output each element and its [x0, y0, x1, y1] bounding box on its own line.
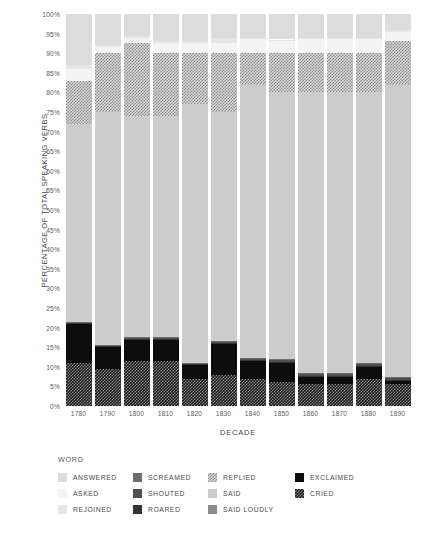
bar-column — [182, 14, 208, 406]
bar-column — [66, 14, 92, 406]
bar-segment — [269, 53, 295, 92]
bar-segment — [211, 343, 237, 374]
bar-segment — [298, 377, 324, 385]
bar-segment — [385, 381, 411, 385]
bar-segment — [298, 374, 324, 376]
bar-segment — [240, 361, 266, 379]
legend-item[interactable]: SHOUTED — [133, 489, 185, 498]
x-tick-label: 1840 — [238, 410, 267, 417]
bar-segment — [356, 38, 382, 40]
legend-label: EXCLAIMED — [310, 474, 354, 481]
legend-item[interactable]: REJOINED — [58, 505, 112, 514]
y-tick-label: 100% — [42, 11, 60, 18]
bar-segment — [124, 361, 150, 406]
bar-segment — [356, 39, 382, 53]
bar-segment — [66, 322, 92, 323]
y-tick-label: 55% — [46, 187, 60, 194]
legend-item[interactable]: CRIED — [295, 489, 334, 498]
bar-segment — [269, 40, 295, 42]
legend-label: ANSWERED — [73, 474, 117, 481]
bar-segment — [298, 39, 324, 53]
bar-segment — [95, 346, 121, 347]
bar-column — [269, 14, 295, 406]
bar-segment — [269, 41, 295, 53]
bar-segment — [211, 375, 237, 406]
bar-segment — [124, 339, 150, 340]
bar-segment — [182, 364, 208, 365]
bar-segment — [66, 14, 92, 65]
legend-item[interactable]: ROARED — [133, 505, 180, 514]
y-tick-label: 75% — [46, 109, 60, 116]
legend-grid: ANSWEREDASKEDREJOINEDSCREAMEDSHOUTEDROAR… — [58, 473, 398, 517]
legend-swatch-icon — [295, 473, 304, 482]
y-tick-label: 50% — [46, 207, 60, 214]
legend-label: ASKED — [73, 490, 99, 497]
legend-item[interactable]: ASKED — [58, 489, 99, 498]
bar-segment — [240, 360, 266, 361]
legend-item[interactable]: SCREAMED — [133, 473, 191, 482]
bar-segment — [298, 384, 324, 406]
legend-item[interactable]: REPLIED — [208, 473, 256, 482]
bar-segment — [385, 377, 411, 379]
bar-column — [298, 14, 324, 406]
bar-segment — [240, 39, 266, 53]
y-tick-label: 90% — [46, 50, 60, 57]
bar-segment — [153, 339, 179, 361]
bar-segment — [95, 53, 121, 112]
legend-label: REPLIED — [223, 474, 256, 481]
legend-label: ROARED — [148, 506, 180, 513]
bar-segment — [153, 43, 179, 53]
legend-swatch-icon — [208, 489, 217, 498]
plot-area — [64, 14, 412, 406]
bar-segment — [95, 347, 121, 369]
x-tick-label: 1860 — [296, 410, 325, 417]
bar-column — [385, 14, 411, 406]
bar-segment — [356, 379, 382, 406]
x-tick-label: 1820 — [180, 410, 209, 417]
stacked-bar-chart: PERCENTAGE OF TOTAL SPEAKING VERBS 100%9… — [0, 0, 430, 537]
bar-segment — [356, 53, 382, 92]
bar-segment — [211, 341, 237, 342]
bar-segment — [327, 53, 353, 92]
x-tick-label: 1850 — [267, 410, 296, 417]
y-tick-label: 60% — [46, 167, 60, 174]
bar-segment — [240, 53, 266, 84]
legend-item[interactable]: EXCLAIMED — [295, 473, 354, 482]
bar-column — [240, 14, 266, 406]
legend-item[interactable]: SAID — [208, 489, 241, 498]
y-tick-label: 20% — [46, 324, 60, 331]
legend-swatch-icon — [133, 489, 142, 498]
bar-segment — [327, 14, 353, 38]
bar-segment — [385, 30, 411, 32]
x-axis-title: DECADE — [64, 428, 412, 437]
bar-segment — [182, 14, 208, 41]
y-tick-label: 15% — [46, 344, 60, 351]
bar-segment — [298, 92, 324, 373]
y-tick-label: 70% — [46, 128, 60, 135]
bar-segment — [327, 373, 353, 374]
legend-swatch-icon — [208, 473, 217, 482]
bar-segment — [356, 92, 382, 363]
bar-segment — [211, 38, 237, 44]
legend-item[interactable]: ANSWERED — [58, 473, 117, 482]
legend-label: REJOINED — [73, 506, 112, 513]
y-tick-label: 65% — [46, 148, 60, 155]
bar-column — [327, 14, 353, 406]
legend-item[interactable]: SAID LOUDLY — [208, 505, 274, 514]
bar-segment — [66, 69, 92, 81]
bar-segment — [327, 377, 353, 385]
bar-column — [356, 14, 382, 406]
bar-segment — [269, 362, 295, 363]
bar-segment — [182, 41, 208, 43]
bar-segment — [327, 39, 353, 53]
legend-swatch-icon — [133, 505, 142, 514]
bar-segment — [385, 32, 411, 42]
legend-label: SCREAMED — [148, 474, 191, 481]
bar-segment — [356, 367, 382, 379]
bar-segment — [153, 361, 179, 406]
bar-segment — [124, 36, 150, 38]
bar-segment — [124, 38, 150, 44]
bar-segment — [182, 43, 208, 53]
bar-segment — [153, 337, 179, 338]
bar-segment — [182, 53, 208, 104]
